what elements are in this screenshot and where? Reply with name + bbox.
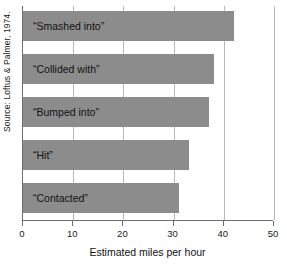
x-axis-tick-label: 40 xyxy=(208,228,238,239)
bar-series: “Smashed into”“Collided with”“Bumped int… xyxy=(23,6,273,220)
x-axis-tick-label: 30 xyxy=(158,228,188,239)
bar-category-label: “Smashed into” xyxy=(33,11,104,41)
bar-category-label: “Contacted” xyxy=(33,183,88,213)
plot-area: “Smashed into”“Collided with”“Bumped int… xyxy=(22,6,273,221)
x-axis-tick-label: 20 xyxy=(107,228,137,239)
bar-row: “Hit” xyxy=(23,140,274,170)
x-axis-tick xyxy=(22,221,23,226)
gridline xyxy=(274,6,275,220)
bar-category-label: “Collided with” xyxy=(33,54,100,84)
bar-chart-figure: Source: Loftus & Palmer, 1974. “Smashed … xyxy=(0,0,287,267)
source-citation: Source: Loftus & Palmer, 1974. xyxy=(0,0,14,132)
x-axis-tick xyxy=(173,221,174,226)
bar-category-label: “Hit” xyxy=(33,140,53,170)
x-axis-tick xyxy=(273,221,274,226)
x-axis-tick-label: 0 xyxy=(7,228,37,239)
bar-row: “Bumped into” xyxy=(23,97,274,127)
x-axis-tick-label: 50 xyxy=(258,228,287,239)
x-axis-tick xyxy=(72,221,73,226)
x-axis-label: Estimated miles per hour xyxy=(22,246,273,258)
x-axis-tick xyxy=(122,221,123,226)
bar-category-label: “Bumped into” xyxy=(33,97,99,127)
bar-row: “Collided with” xyxy=(23,54,274,84)
x-axis-tick-label: 10 xyxy=(57,228,87,239)
bar-row: “Smashed into” xyxy=(23,11,274,41)
bar-row: “Contacted” xyxy=(23,183,274,213)
x-axis-tick xyxy=(223,221,224,226)
